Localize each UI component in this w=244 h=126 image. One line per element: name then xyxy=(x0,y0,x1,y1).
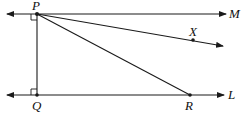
label-q: Q xyxy=(32,98,42,113)
label-x: X xyxy=(188,24,198,39)
segment-pr xyxy=(37,14,190,95)
point-q xyxy=(35,93,39,97)
label-l: L xyxy=(227,87,235,102)
label-r: R xyxy=(184,98,193,113)
point-r xyxy=(188,93,192,97)
label-p: P xyxy=(31,0,40,13)
label-m: M xyxy=(228,6,241,21)
geometry-diagram: P Q R X M L xyxy=(0,0,244,126)
